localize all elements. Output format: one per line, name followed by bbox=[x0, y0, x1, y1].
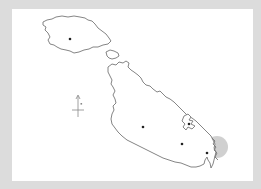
marker-southeast[interactable] bbox=[206, 152, 209, 155]
map-canvas[interactable] bbox=[0, 0, 261, 189]
marker-malta-east[interactable] bbox=[181, 143, 184, 146]
island-malta[interactable] bbox=[108, 61, 216, 168]
island-gozo[interactable] bbox=[43, 16, 111, 53]
marker-harbour[interactable] bbox=[188, 123, 191, 126]
marker-gozo[interactable] bbox=[69, 38, 72, 41]
marker-malta-center[interactable] bbox=[142, 126, 145, 129]
island-comino[interactable] bbox=[106, 50, 119, 59]
north-arrow-icon bbox=[72, 95, 84, 117]
